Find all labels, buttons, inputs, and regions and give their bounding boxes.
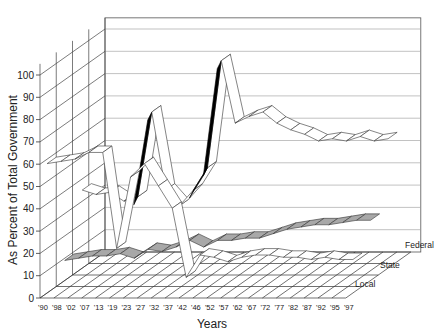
x-tick-label: '07	[80, 303, 90, 312]
3d-ribbon-chart: 0102030405060708090100'90'98'02'07'13'19…	[0, 0, 440, 335]
x-tick-label: '82	[288, 303, 298, 312]
x-tick-label: '98	[52, 303, 62, 312]
depth-label-local: Local	[355, 279, 375, 289]
x-tick-label: '95	[330, 303, 340, 312]
y-tick-label: 40	[23, 203, 35, 214]
x-tick-label: '90	[38, 303, 48, 312]
x-tick-label: '19	[108, 303, 118, 312]
y-tick-label: 80	[23, 114, 35, 125]
y-tick-label: 100	[17, 70, 34, 81]
x-tick-label: '52	[205, 303, 215, 312]
y-tick-label: 90	[23, 92, 35, 103]
depth-label-state: State	[380, 260, 400, 270]
x-tick-label: '37	[163, 303, 173, 312]
y-tick-label: 0	[28, 293, 34, 304]
x-tick-label: '67	[247, 303, 257, 312]
x-tick-label: '77	[274, 303, 284, 312]
depth-label-federal: Federal	[405, 240, 434, 250]
x-tick-label: '02	[66, 303, 76, 312]
x-tick-label: '32	[149, 303, 159, 312]
y-tick-label: 20	[23, 248, 35, 259]
x-tick-label: '92	[316, 303, 326, 312]
x-tick-label: '72	[261, 303, 271, 312]
x-tick-label: '97	[344, 303, 354, 312]
y-tick-label: 10	[23, 270, 35, 281]
y-tick-label: 70	[23, 136, 35, 147]
x-tick-label: '13	[94, 303, 104, 312]
x-tick-label: '23	[122, 303, 132, 312]
y-axis-title: As Percent of Total Government	[6, 94, 20, 265]
x-axis-title: Years	[197, 317, 227, 331]
y-tick-label: 30	[23, 226, 35, 237]
y-tick-label: 50	[23, 181, 35, 192]
x-tick-label: '27	[135, 303, 145, 312]
x-tick-label: '62	[233, 303, 243, 312]
x-tick-label: '57	[219, 303, 229, 312]
x-tick-label: '42	[177, 303, 187, 312]
x-tick-label: '87	[302, 303, 312, 312]
x-tick-label: '46	[191, 303, 201, 312]
y-tick-label: 60	[23, 159, 35, 170]
